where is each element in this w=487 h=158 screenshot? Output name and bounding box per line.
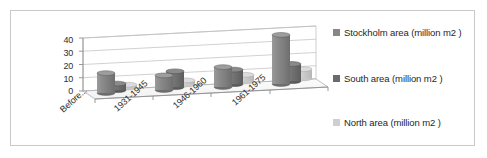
y-axis-tick-labels: 40 30 20 10 0	[45, 36, 73, 94]
legend-label-south: South area (million m2 )	[344, 73, 442, 85]
bar-1946-1960-stockholm	[214, 65, 232, 90]
legend-swatch-north-icon	[333, 119, 340, 126]
chart-legend: Stockholm area (million m2 ) South area …	[333, 23, 473, 139]
chart-screenshot: 40 30 20 10 0 Before... 1931-1945 1946-1…	[0, 0, 487, 158]
legend-item-stockholm[interactable]: Stockholm area (million m2 )	[333, 27, 473, 39]
legend-label-north: North area (million m2 )	[344, 117, 441, 129]
chart-frame: 40 30 20 10 0 Before... 1931-1945 1946-1…	[10, 10, 475, 146]
bar-1961-1975-stockholm	[272, 33, 290, 87]
y-tick-20: 20	[64, 62, 73, 71]
legend-swatch-south-icon	[333, 75, 340, 82]
bar-1931-1945-stockholm	[155, 73, 173, 92]
y-tick-40: 40	[64, 36, 73, 45]
y-tick-10: 10	[64, 75, 73, 84]
legend-label-stockholm: Stockholm area (million m2 )	[344, 27, 462, 39]
y-tick-30: 30	[64, 49, 73, 58]
legend-item-south[interactable]: South area (million m2 )	[333, 73, 473, 85]
y-axis	[79, 38, 83, 91]
legend-item-north[interactable]: North area (million m2 )	[333, 117, 473, 129]
bar-before-stockholm	[97, 71, 115, 96]
plot-area: 40 30 20 10 0 Before... 1931-1945 1946-1…	[11, 11, 331, 147]
legend-swatch-stockholm-icon	[333, 29, 340, 36]
